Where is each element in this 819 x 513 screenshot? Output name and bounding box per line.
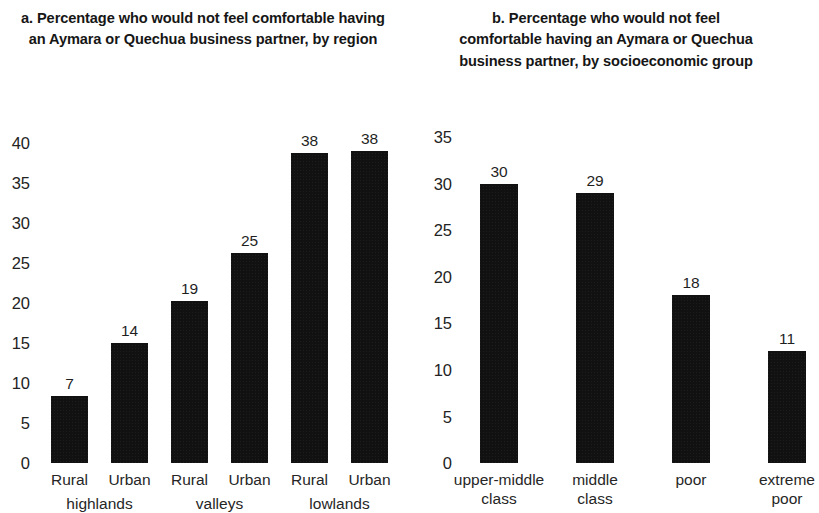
chart-panel-b: b. Percentage who would not feel comfort… xyxy=(406,0,812,513)
xlabel-urban-lowlands: Urban xyxy=(340,471,399,490)
xlabel-extreme-poor-line1: extreme xyxy=(729,471,819,490)
bar-urban-valleys xyxy=(231,253,268,463)
bar-value-upper-middle-class: 30 xyxy=(480,164,518,180)
panel-a-ytick-25: 25 xyxy=(0,255,30,272)
xlabel-urban-valleys: Urban xyxy=(220,471,279,490)
panel-a-ytick-35: 35 xyxy=(0,175,30,192)
panel-a-ytick-20: 20 xyxy=(0,295,30,312)
group-label-lowlands: lowlands xyxy=(280,496,399,512)
panel-a-ytick-30: 30 xyxy=(0,215,30,232)
bar-value-poor: 18 xyxy=(672,275,710,291)
panel-b-ytick-0: 0 xyxy=(422,455,452,472)
panel-b-ytick-30: 30 xyxy=(422,176,452,193)
panel-a-ytick-40: 40 xyxy=(0,135,30,152)
xlabel-rural-lowlands: Rural xyxy=(280,471,339,490)
panel-b-ytick-20: 20 xyxy=(422,269,452,286)
bar-urban-highlands xyxy=(111,343,148,463)
panel-b-ytick-10: 10 xyxy=(422,362,452,379)
bar-upper-middle-class xyxy=(480,184,518,463)
xlabel-rural-highlands: Rural xyxy=(40,471,99,490)
panel-a-ytick-5: 5 xyxy=(0,415,30,432)
bar-value-rural-lowlands: 38 xyxy=(291,133,328,149)
bar-urban-lowlands xyxy=(351,151,388,463)
panel-b-ytick-15: 15 xyxy=(422,315,452,332)
bar-rural-valleys xyxy=(171,301,208,463)
xlabel-extreme-poor-line2: poor xyxy=(729,490,819,509)
panel-a-ytick-0: 0 xyxy=(0,455,30,472)
bar-value-rural-valleys: 19 xyxy=(171,281,208,297)
bar-middle-class xyxy=(576,193,614,463)
chart-panel-a: a. Percentage who would not feel comfort… xyxy=(0,0,406,513)
bar-value-rural-highlands: 7 xyxy=(51,376,88,392)
bar-extreme-poor xyxy=(768,351,806,463)
xlabel-extreme-poor: extreme poor xyxy=(729,471,819,509)
panel-b-ytick-25: 25 xyxy=(422,222,452,239)
bar-rural-lowlands xyxy=(291,153,328,463)
xlabel-urban-highlands: Urban xyxy=(100,471,159,490)
xlabel-rural-valleys: Rural xyxy=(160,471,219,490)
xlabel-middle-class-line2: class xyxy=(537,490,653,509)
bar-value-urban-lowlands: 38 xyxy=(351,131,388,147)
panel-b-plot-area: 0 5 10 15 20 25 30 35 30 29 18 11 upper-… xyxy=(406,0,812,513)
bar-value-extreme-poor: 11 xyxy=(768,331,806,347)
bar-value-urban-highlands: 14 xyxy=(111,323,148,339)
bar-value-urban-valleys: 25 xyxy=(231,233,268,249)
panel-a-ytick-15: 15 xyxy=(0,335,30,352)
bar-rural-highlands xyxy=(51,396,88,463)
group-label-highlands: highlands xyxy=(40,496,159,512)
panel-b-ytick-35: 35 xyxy=(422,129,452,146)
panel-a-ytick-10: 10 xyxy=(0,375,30,392)
bar-poor xyxy=(672,295,710,463)
panel-b-ytick-5: 5 xyxy=(422,409,452,426)
group-label-valleys: valleys xyxy=(160,496,279,512)
bar-value-middle-class: 29 xyxy=(576,173,614,189)
panel-a-plot-area: 0 5 10 15 20 25 30 35 40 7 14 19 25 38 3… xyxy=(0,0,406,513)
